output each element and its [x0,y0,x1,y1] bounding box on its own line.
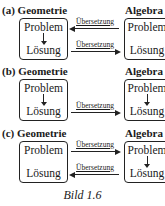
problem-label: Problem [20,21,67,33]
translation-label: Übersetzung [69,141,121,149]
translation-arrow-left: Übersetzung [69,19,121,31]
loesung-label: Lösung [125,105,165,117]
panel-c-left-title: (c) Geometrie [2,127,66,139]
algebra-box: Problem Lösung [124,141,165,183]
translation-arrow-right: Übersetzung [69,42,121,54]
problem-label: Problem [20,82,67,94]
problem-label: Problem [20,144,67,156]
loesung-label: Lösung [20,44,67,56]
down-arrow-icon [147,94,148,103]
arrow-right-icon [71,51,119,52]
translation-label: Übersetzung [69,164,121,172]
geometrie-box: Problem Lösung [19,18,68,60]
arrow-right-icon [71,151,119,152]
translation-arrow-left: Übersetzung [69,165,121,177]
problem-label: Problem [125,82,165,94]
geometrie-box: Problem Lösung [19,79,68,121]
down-arrow-icon [43,94,44,103]
panel-c-right-title: Algebra [125,127,163,139]
down-arrow-icon [43,33,44,42]
panel-a-right-title: Algebra [125,4,163,16]
panel-a: (a) Geometrie Algebra Problem Lösung Übe… [0,4,165,66]
loesung-label: Lösung [125,167,165,179]
panel-a-left-title: (a) Geometrie [2,4,67,16]
loesung-label: Lösung [20,167,67,179]
geometrie-box: Problem Lösung [19,141,68,183]
problem-label: Problem [125,144,165,156]
algebra-box: Problem Lösung [124,79,165,121]
figure-caption: Bild 1.6 [0,188,165,203]
loesung-label: Lösung [125,44,165,56]
panel-b-right-title: Algebra [125,65,163,77]
panel-c: (c) Geometrie Algebra Problem Lösung Übe… [0,127,165,189]
arrow-right-icon [71,112,119,113]
loesung-label: Lösung [20,105,67,117]
translation-label: Übersetzung [69,18,121,26]
panel-b-left-title: (b) Geometrie [2,65,68,77]
translation-label: Übersetzung [69,41,121,49]
algebra-box: Problem Lösung [124,18,165,60]
panel-b: (b) Geometrie Algebra Problem Lösung Übe… [0,65,165,127]
arrow-left-icon [71,28,119,29]
translation-arrow-right: Übersetzung [69,103,121,115]
problem-label: Problem [125,21,165,33]
translation-label: Übersetzung [69,102,121,110]
translation-arrow-right: Übersetzung [69,142,121,154]
arrow-left-icon [71,174,119,175]
down-arrow-icon [147,156,148,165]
